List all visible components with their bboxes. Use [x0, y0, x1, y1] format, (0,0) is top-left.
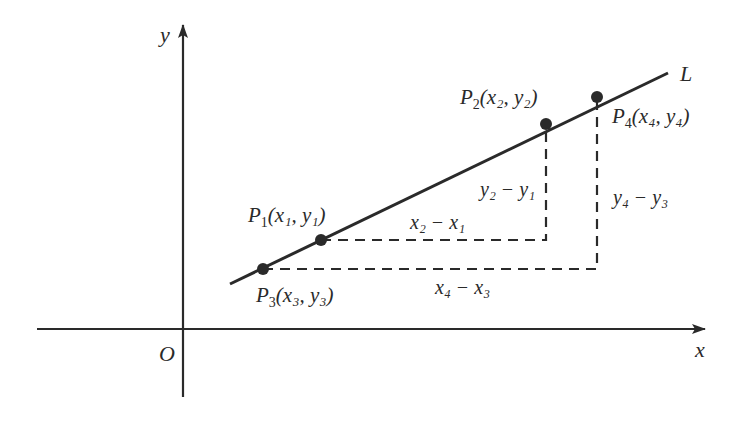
- point-p4: [591, 91, 603, 103]
- point-p2: [540, 118, 552, 130]
- diagram-canvas: y x O L P1(x₁, y₁) P2(x₂, y₂) P3(x₃, y₃)…: [0, 0, 743, 421]
- label-p3: P3(x₃, y₃): [255, 283, 334, 310]
- line-l: [230, 73, 668, 284]
- label-p1: P1(x₁, y₁): [247, 203, 326, 230]
- origin-label: O: [159, 341, 175, 366]
- label-dy-12: y₂ − y₁: [478, 178, 535, 201]
- y-axis-label: y: [158, 22, 170, 47]
- label-p4: P4(x₄, y₄): [611, 104, 690, 131]
- line-label: L: [679, 61, 692, 86]
- label-dy-34: y₄ − y₃: [611, 186, 668, 209]
- label-dx-12: x₂ − x₁: [409, 211, 465, 233]
- x-axis-label: x: [694, 337, 705, 362]
- label-p2: P2(x₂, y₂): [459, 85, 538, 112]
- label-dx-34: x₄ − x₃: [434, 276, 490, 298]
- point-p3: [257, 263, 269, 275]
- point-p1: [315, 234, 327, 246]
